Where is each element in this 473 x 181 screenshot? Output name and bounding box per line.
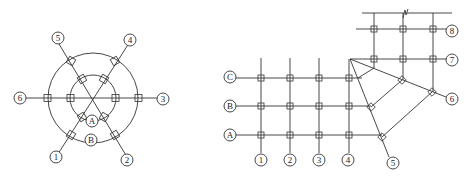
chord-a: [382, 92, 432, 137]
grid-nodes: [258, 26, 436, 141]
fan-label-6: 6: [450, 94, 455, 104]
axis-label-2: 2: [125, 155, 130, 165]
row-label-a: A: [227, 130, 234, 140]
fan-label-5: 5: [391, 158, 396, 168]
col-label-3: 3: [317, 155, 322, 165]
diagram-canvas: 5 4 6 3 A B 1 2 C B A 1 2 3 4 5 6 7 8: [0, 0, 473, 181]
chord-c: [358, 68, 374, 78]
axis-label-3: 3: [161, 94, 166, 104]
col-label-4: 4: [346, 155, 351, 165]
row-label-c: C: [227, 72, 233, 82]
axis-label-4: 4: [128, 35, 133, 45]
orthogonal-grid: [235, 58, 382, 153]
axis-label-5: 5: [56, 33, 61, 43]
row-label-8: 8: [450, 26, 455, 36]
radial-label-bubbles: [14, 32, 169, 166]
axis-label-6: 6: [18, 93, 23, 103]
ring-label-b: B: [88, 135, 94, 145]
row-label-7: 7: [450, 55, 455, 65]
row-label-b: B: [227, 101, 233, 111]
axis-6: [350, 59, 446, 97]
ring-label-a: A: [89, 116, 96, 126]
axis-label-1: 1: [54, 152, 59, 162]
axis-5: [350, 59, 389, 157]
chord-b: [371, 80, 402, 107]
fan-grid: [350, 59, 446, 157]
col-label-2: 2: [288, 155, 293, 165]
col-label-1: 1: [259, 155, 264, 165]
break-mark: [403, 9, 408, 18]
grid-label-bubbles: [224, 25, 458, 169]
